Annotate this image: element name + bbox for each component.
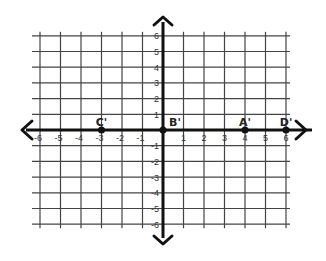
y-tick-label: 2	[154, 94, 159, 104]
x-tick-label: -3	[95, 133, 103, 143]
x-tick-label: 1	[181, 133, 186, 143]
y-tick-label: 5	[154, 47, 159, 57]
y-tick-label: 6	[154, 31, 159, 41]
x-tick-label: -6	[34, 133, 42, 143]
x-tick-label: 2	[201, 133, 206, 143]
y-tick-label: -6	[151, 220, 159, 230]
point-label: B'	[169, 116, 181, 129]
y-tick-label: 4	[154, 63, 159, 73]
point-label: C'	[96, 116, 107, 129]
x-tick-labels: -6-5-4-3-2-1123456	[34, 133, 289, 143]
y-tick-label: 1	[154, 110, 159, 120]
y-tick-label: -3	[151, 173, 159, 183]
x-tick-label: 3	[222, 133, 227, 143]
x-tick-label: -2	[116, 133, 124, 143]
x-tick-label: -1	[136, 133, 144, 143]
y-tick-label: -2	[151, 157, 159, 167]
y-tick-label: -4	[151, 188, 159, 198]
y-tick-label: 3	[154, 78, 159, 88]
point-label: A'	[239, 116, 251, 129]
point-label: D'	[280, 116, 293, 129]
coordinate-plane: -6-5-4-3-2-1123456 654321-1-2-3-4-5-6 C'…	[0, 0, 326, 261]
point-marker	[160, 127, 167, 134]
y-tick-label: -1	[151, 141, 159, 151]
x-tick-label: 4	[242, 133, 247, 143]
x-tick-label: -5	[54, 133, 62, 143]
x-tick-label: 5	[263, 133, 268, 143]
x-tick-label: -4	[75, 133, 83, 143]
y-tick-label: -5	[151, 204, 159, 214]
x-tick-label: 6	[283, 133, 288, 143]
